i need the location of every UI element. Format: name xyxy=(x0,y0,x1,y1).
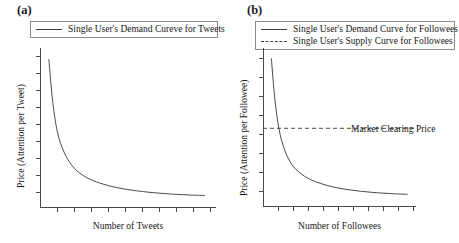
panel-b-y-axis-label: Price (Attention per Followee) xyxy=(239,80,249,196)
panel-b-x-tick xyxy=(308,207,309,211)
panel-a-x-tick xyxy=(159,208,160,212)
panel-a-x-tick xyxy=(74,208,75,212)
panel-b-x-tick xyxy=(383,207,384,211)
panel-a-x-tick xyxy=(142,208,143,212)
panel-a-x-tick xyxy=(125,208,126,212)
legend-label-demand-tweets: Single User's Demand Cureve for Tweets xyxy=(68,24,225,35)
panel-b: (b) Single User's Demand Curve for Follo… xyxy=(230,0,459,243)
legend-line-dashed-icon xyxy=(260,36,288,46)
panel-b-x-tick xyxy=(293,207,294,211)
panel-b-x-tick xyxy=(278,207,279,211)
panel-a-x-tick xyxy=(91,208,92,212)
panel-b-plot-area: Market Clearing Price xyxy=(263,48,416,207)
panel-b-x-tick xyxy=(338,207,339,211)
panel-a-y-axis-label: Price (Attention per Tweet) xyxy=(16,84,26,188)
legend-entry-supply-followees: Single User's Supply Curve for Followees xyxy=(260,35,450,47)
panel-b-x-tick xyxy=(353,207,354,211)
panel-b-x-tick xyxy=(323,207,324,211)
panel-a-x-axis-label: Number of Tweets xyxy=(40,221,216,231)
panel-b-x-tick xyxy=(368,207,369,211)
panel-a-legend: Single User's Demand Cureve for Tweets xyxy=(30,21,218,38)
panel-a-x-tick xyxy=(176,208,177,212)
panel-a-x-tick xyxy=(108,208,109,212)
legend-entry-demand-tweets: Single User's Demand Cureve for Tweets xyxy=(35,23,213,35)
panel-a: (a) Single User's Demand Cureve for Twee… xyxy=(0,0,230,243)
legend-line-solid-icon xyxy=(35,24,63,34)
panel-b-x-tick xyxy=(413,207,414,211)
panel-b-tag: (b) xyxy=(247,4,262,17)
legend-line-solid-icon xyxy=(260,24,288,34)
market-clearing-price-label: Market Clearing Price xyxy=(351,124,435,134)
panel-a-x-tick xyxy=(57,208,58,212)
panel-a-tag: (a) xyxy=(17,4,32,17)
panel-b-x-tick xyxy=(398,207,399,211)
panel-a-plot-area xyxy=(40,48,216,208)
panel-b-x-axis-label: Number of Followees xyxy=(263,221,416,231)
figure-container: (a) Single User's Demand Cureve for Twee… xyxy=(0,0,459,243)
legend-label-supply-followees: Single User's Supply Curve for Followees xyxy=(293,36,453,47)
legend-entry-demand-followees: Single User's Demand Curve for Followees xyxy=(260,23,450,35)
panel-b-legend: Single User's Demand Curve for Followees… xyxy=(255,21,455,50)
panel-a-x-tick xyxy=(193,208,194,212)
legend-label-demand-followees: Single User's Demand Curve for Followees xyxy=(293,24,458,35)
panel-a-demand-curve xyxy=(40,48,216,208)
panel-a-x-tick xyxy=(210,208,211,212)
